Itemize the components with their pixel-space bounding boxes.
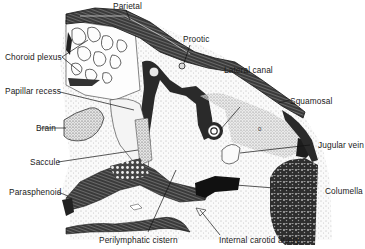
label-internal-carotid-artery: Internal carotid artery: [219, 236, 300, 244]
label-perilymphatic-cistern: Perilymphatic cistern: [99, 236, 178, 244]
label-papillar-recess: Papillar recess: [5, 87, 61, 95]
label-parasphenoid: Parasphenoid: [9, 188, 61, 196]
lateral-canal: [205, 122, 223, 140]
label-parietal: Parietal: [113, 2, 142, 10]
label-saccule: Saccule: [30, 158, 60, 166]
label-squamosal: Squamosal: [290, 97, 332, 105]
label-jugular-vein: Jugular vein: [318, 141, 364, 149]
label-choroid-plexus: Choroid plexus: [5, 53, 62, 61]
label-lateral-canal: Lateral canal: [224, 66, 273, 74]
label-columella: Columella: [325, 187, 363, 195]
label-prootic: Prootic: [183, 35, 210, 43]
label-brain: Brain: [36, 124, 56, 132]
